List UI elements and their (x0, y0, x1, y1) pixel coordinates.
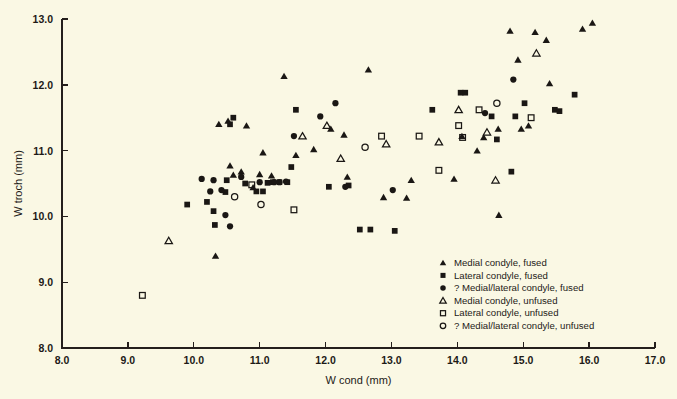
data-point-filled-triangle (268, 172, 275, 178)
data-point-filled-circle (332, 100, 338, 106)
axis-titles-group: W cond (mm)W troch (mm) (12, 150, 392, 386)
data-point-filled-square (392, 228, 398, 234)
data-point-filled-triangle (344, 173, 351, 179)
data-point-open-circle (362, 144, 368, 150)
y-tick-label: 13.0 (33, 13, 54, 25)
data-point-filled-square (224, 177, 230, 183)
data-point-filled-triangle (495, 125, 502, 131)
data-point-open-square (456, 123, 462, 129)
y-tick-label: 9.0 (38, 276, 53, 288)
legend-marker-open-circle (440, 323, 446, 329)
data-series (212, 19, 596, 258)
data-point-filled-square (288, 164, 294, 170)
x-axis-title: W cond (mm) (326, 374, 392, 386)
data-point-filled-square (357, 227, 363, 233)
data-point-filled-triangle (473, 147, 480, 153)
data-point-filled-triangle (212, 252, 219, 258)
data-point-filled-square (242, 181, 248, 187)
x-tick-label: 17.0 (645, 354, 666, 366)
data-point-filled-circle (482, 110, 488, 116)
data-point-filled-triangle (525, 122, 532, 128)
legend-group: Medial condyle, fusedLateral condyle, fu… (440, 257, 595, 331)
legend-marker-filled-circle (440, 285, 446, 291)
data-point-open-triangle (492, 177, 499, 183)
data-point-filled-circle (276, 179, 282, 185)
x-tick-label: 11.0 (250, 354, 270, 366)
data-point-open-square (140, 293, 146, 299)
data-point-filled-square (212, 222, 218, 228)
data-point-filled-circle (222, 212, 228, 218)
y-tick-label: 11.0 (33, 145, 53, 157)
data-point-open-square (436, 167, 442, 173)
data-point-open-square (476, 107, 482, 113)
data-point-filled-triangle (450, 175, 457, 181)
data-point-open-square (379, 133, 385, 139)
x-tick-label: 12.0 (315, 354, 336, 366)
data-point-open-circle (232, 194, 238, 200)
scatter-plot-figure: 8.09.010.011.012.013.014.015.016.017.08.… (0, 0, 677, 399)
data-point-filled-square (512, 114, 518, 120)
data-point-filled-triangle (518, 125, 525, 131)
data-point-filled-circle (317, 113, 323, 119)
data-point-filled-square (326, 184, 332, 190)
data-point-filled-square (211, 208, 217, 214)
data-point-filled-circle (390, 187, 396, 193)
data-point-filled-square (227, 121, 233, 127)
data-point-filled-triangle (514, 56, 521, 62)
legend-label: Medial condyle, unfused (454, 295, 557, 306)
tick-marks-group (62, 19, 655, 348)
data-point-filled-square (293, 107, 299, 113)
data-point-filled-circle (510, 76, 516, 82)
axes-group (62, 19, 655, 348)
x-tick-label: 8.0 (55, 354, 70, 366)
data-point-filled-square (509, 169, 515, 175)
legend-marker-filled-triangle (440, 260, 446, 266)
data-point-filled-triangle (243, 122, 250, 128)
data-point-filled-circle (291, 133, 297, 139)
y-tick-label: 10.0 (33, 210, 54, 222)
data-point-filled-triangle (292, 152, 299, 158)
data-point-open-triangle (299, 133, 306, 139)
data-point-filled-square (368, 227, 374, 233)
data-point-filled-triangle (403, 195, 410, 201)
data-point-filled-triangle (495, 212, 502, 218)
data-point-open-triangle (165, 237, 172, 243)
data-point-open-triangle (435, 139, 442, 145)
data-point-filled-circle (210, 177, 216, 183)
plot-canvas: 8.09.010.011.012.013.014.015.016.017.08.… (0, 0, 677, 399)
data-point-filled-square (522, 100, 528, 106)
legend-label: Medial condyle, fused (454, 257, 547, 268)
data-point-filled-square (184, 202, 190, 208)
data-point-filled-triangle (579, 25, 586, 31)
data-point-filled-triangle (543, 37, 550, 43)
data-point-filled-circle (207, 188, 213, 194)
data-series (232, 100, 500, 208)
data-series (165, 50, 540, 244)
data-point-filled-circle (342, 184, 348, 190)
data-point-filled-triangle (310, 146, 317, 152)
x-tick-label: 10.0 (184, 354, 205, 366)
y-tick-label: 12.0 (33, 79, 54, 91)
tick-labels-group: 8.09.010.011.012.013.014.015.016.017.08.… (33, 13, 666, 366)
data-point-filled-triangle (408, 177, 415, 183)
data-point-open-triangle (337, 155, 344, 161)
data-point-filled-triangle (506, 27, 513, 33)
data-point-filled-circle (283, 178, 289, 184)
data-point-filled-square (429, 107, 435, 113)
data-point-open-triangle (323, 122, 330, 128)
data-point-filled-circle (238, 174, 244, 180)
data-series (199, 76, 517, 229)
data-point-filled-circle (227, 223, 233, 229)
data-point-open-square (528, 115, 534, 121)
data-point-filled-circle (199, 176, 205, 182)
data-point-filled-triangle (259, 149, 266, 155)
data-point-filled-square (260, 189, 266, 195)
data-point-filled-triangle (380, 194, 387, 200)
data-point-filled-square (265, 180, 271, 186)
data-point-filled-triangle (531, 29, 538, 35)
data-point-filled-triangle (256, 171, 263, 177)
data-point-filled-square (462, 90, 468, 96)
data-point-filled-square (572, 92, 578, 98)
data-point-open-triangle (533, 50, 540, 56)
data-point-open-circle (494, 100, 500, 106)
